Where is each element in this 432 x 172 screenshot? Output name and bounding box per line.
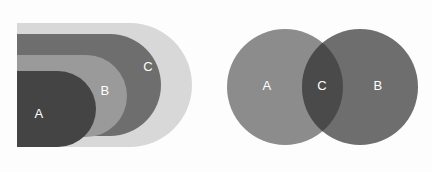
figure-root: A B C D A C B (0, 0, 432, 172)
region-a-label: A (35, 106, 44, 121)
region-d-label: D (179, 37, 189, 52)
nested-sets-diagram: A B C D (0, 0, 216, 172)
venn-diagram: A C B (216, 0, 432, 172)
venn-svg: A C B (216, 0, 432, 172)
region-b-label: B (101, 83, 110, 98)
region-c-label: C (143, 59, 153, 74)
venn-label-b: B (374, 78, 383, 93)
region-a-shape (17, 71, 96, 147)
venn-label-a: A (263, 78, 272, 93)
venn-label-c: C (317, 78, 327, 93)
nested-sets-svg: A B C D (0, 0, 216, 172)
